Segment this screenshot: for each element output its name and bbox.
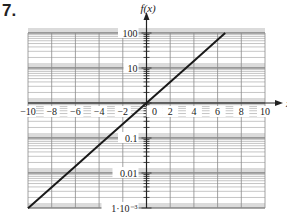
y-tick-label: 1·10⁻³ [111, 203, 137, 214]
x-tick-label: −2 [117, 106, 128, 117]
x-tick-label: −8 [46, 106, 57, 117]
data-series [28, 33, 225, 208]
tick-labels: f(x)x−10−8−6−4−20246810100100.10.011·10⁻… [20, 2, 287, 214]
x-tick-label: −10 [20, 106, 36, 117]
y-tick-label: 10 [128, 63, 138, 74]
x-tick-label: 2 [168, 106, 173, 117]
y-tick-label: 0.01 [120, 168, 138, 179]
x-axis-arrow-icon [275, 100, 283, 106]
x-tick-label: 4 [191, 106, 196, 117]
x-axis-label: x [285, 97, 287, 109]
y-tick-label: 100 [123, 28, 138, 39]
y-tick-label: 0.1 [125, 133, 138, 144]
x-tick-label: 6 [215, 106, 220, 117]
x-tick-label: 8 [239, 106, 244, 117]
log-scale-chart: f(x)x−10−8−6−4−20246810100100.10.011·10⁻… [0, 0, 287, 215]
x-tick-label: −4 [94, 106, 105, 117]
x-tick-label: 0 [152, 106, 157, 117]
function-line [28, 33, 225, 208]
y-axis-label: f(x) [141, 2, 157, 15]
x-tick-label: 10 [260, 106, 270, 117]
x-tick-label: −6 [70, 106, 81, 117]
